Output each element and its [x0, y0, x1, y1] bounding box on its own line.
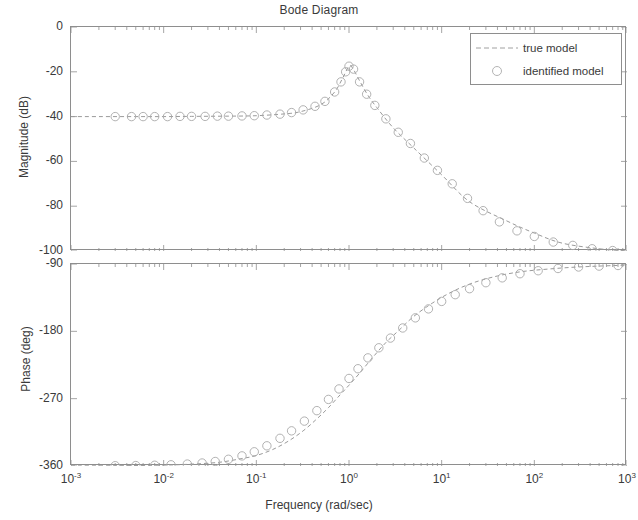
magnitude-tick--100: -100 — [0, 243, 63, 257]
phase-tick--360: -360 — [0, 458, 63, 472]
frequency-tick-1e2: 102 — [512, 472, 556, 486]
phase-tick--270: -270 — [0, 391, 63, 405]
magnitude-tick--80: -80 — [0, 198, 63, 212]
frequency-tick-1e1: 101 — [420, 472, 464, 486]
phase-tick--180: -180 — [0, 323, 63, 337]
true-model-curve — [71, 65, 627, 251]
frequency-tick-1e3: 103 — [605, 472, 638, 486]
magnitude-tick-0: 0 — [0, 19, 63, 33]
identified-model-markers — [111, 62, 617, 251]
legend-label-identified-model: identified model — [523, 65, 604, 77]
dashed-line-icon — [475, 41, 519, 55]
legend-entry-true-model: true model — [471, 37, 623, 59]
phase-tick--90: -90 — [0, 256, 63, 270]
magnitude-axis-label: Magnitude (dB) — [17, 82, 31, 192]
page-title: Bode Diagram — [0, 3, 638, 17]
phase-plot-canvas — [71, 264, 627, 466]
bode-diagram-figure: Bode Diagram Magnitude (dB) Phase (deg) … — [0, 0, 638, 520]
frequency-tick-1e-2: 10-2 — [142, 472, 186, 486]
magnitude-tick--40: -40 — [0, 109, 63, 123]
legend-label-true-model: true model — [523, 42, 577, 54]
frequency-tick-1e-1: 10-1 — [234, 472, 278, 486]
frequency-tick-1e-3: 10-3 — [49, 472, 93, 486]
frequency-tick-1e0: 100 — [327, 472, 371, 486]
legend-box: true model identified model — [470, 33, 622, 85]
magnitude-tick--60: -60 — [0, 153, 63, 167]
frequency-axis-label: Frequency (rad/sec) — [0, 498, 638, 512]
legend-entry-identified-model: identified model — [471, 60, 623, 82]
true-model-curve — [71, 265, 627, 466]
circle-marker-icon — [475, 64, 519, 78]
magnitude-tick--20: -20 — [0, 64, 63, 78]
